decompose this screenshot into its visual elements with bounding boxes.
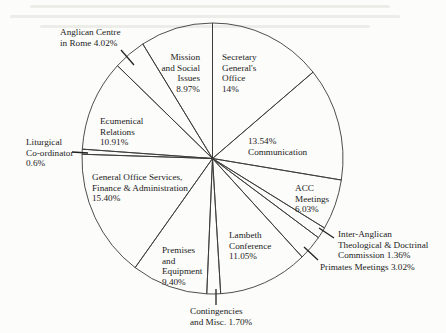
label-primates: Primates Meetings 3.02%	[320, 262, 415, 273]
label-acc: ACC Meetings 6.03%	[295, 183, 329, 215]
label-liturgical: Liturgical Co-ordinator 0.6%	[26, 137, 73, 169]
label-anglican-centre: Anglican Centre in Rome 4.02%	[60, 27, 120, 48]
label-premises: Premises and Equipment 9.40%	[162, 245, 202, 287]
pie-slices	[82, 23, 343, 294]
label-mission: Mission and Social Issues 8.97%	[161, 52, 200, 94]
label-lambeth: Lambeth Conference 11.05%	[229, 230, 271, 262]
label-contingencies: Contingencies and Misc. 1.70%	[190, 306, 252, 327]
label-ecumenical: Ecumenical Relations 10.91%	[100, 116, 143, 148]
label-inter-anglican: Inter-Anglican Theological & Doctrinal C…	[338, 229, 428, 261]
label-general-office: General Office Services, Finance & Admin…	[92, 172, 188, 204]
label-secretary: Secretary General's Office 14%	[222, 52, 257, 94]
label-communication: 13.54% Communication	[248, 136, 307, 157]
leader-liturgical	[72, 152, 88, 153]
pie-slice	[213, 159, 303, 294]
pie-slice	[207, 159, 221, 294]
